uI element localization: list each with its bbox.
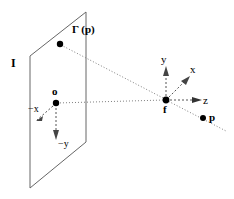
ray-f-to-p xyxy=(166,100,226,131)
axis-x-arrow xyxy=(169,76,190,97)
image-plane-label: I xyxy=(11,57,16,69)
axis-neg-x-label: −x xyxy=(28,104,39,114)
axis-y-arrow xyxy=(163,66,169,96)
projected-point-label: Γ (p) xyxy=(72,24,95,35)
image-plane-shape xyxy=(30,12,86,188)
projection-diagram-canvas xyxy=(0,0,234,199)
axis-y-label: y xyxy=(161,54,167,65)
point-o-dot xyxy=(53,100,59,106)
axis-neg-y-arrow xyxy=(53,108,59,140)
point-p-dot xyxy=(200,115,206,121)
ray-gamma-to-f xyxy=(61,45,165,99)
axis-neg-y-label: −y xyxy=(58,139,69,149)
scene-point-label: p xyxy=(209,112,215,123)
plane-origin-label: o xyxy=(52,86,58,97)
projection-diagram: I Γ (p) o f p −x −y x y z xyxy=(0,0,234,199)
axis-z-arrow xyxy=(170,97,202,103)
axis-x-label: x xyxy=(190,64,196,75)
focal-point-label: f xyxy=(163,104,167,115)
axis-z-label: z xyxy=(203,95,208,106)
optical-axis-o-to-f xyxy=(57,100,165,103)
point-gamma-p-dot xyxy=(57,41,63,47)
